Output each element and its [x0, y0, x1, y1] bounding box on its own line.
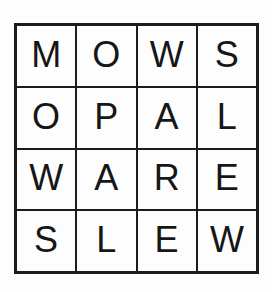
letter-grid: M O W S O P A L W A R: [14, 23, 259, 274]
grid-cell-r3c4[interactable]: E: [198, 150, 256, 210]
grid-cell-r1c3[interactable]: W: [138, 26, 196, 86]
grid-cell-r1c4[interactable]: S: [198, 26, 256, 86]
grid-cell-r4c1[interactable]: S: [17, 211, 75, 271]
cell-letter: W: [150, 37, 184, 73]
cell-letter: E: [155, 222, 179, 258]
cell-letter: L: [217, 99, 237, 135]
grid-cell-r2c4[interactable]: L: [198, 88, 256, 148]
cell-letter: R: [154, 160, 180, 196]
grid-cell-r1c1[interactable]: M: [17, 26, 75, 86]
cell-letter: M: [31, 37, 61, 73]
cell-letter: W: [210, 222, 244, 258]
cell-letter: W: [29, 160, 63, 196]
cell-letter: P: [94, 99, 118, 135]
grid-cell-r2c1[interactable]: O: [17, 88, 75, 148]
grid-cell-r3c3[interactable]: R: [138, 150, 196, 210]
grid-cell-r3c1[interactable]: W: [17, 150, 75, 210]
grid-cell-r1c2[interactable]: O: [77, 26, 135, 86]
grid-cell-r4c4[interactable]: W: [198, 211, 256, 271]
grid-cell-r4c3[interactable]: E: [138, 211, 196, 271]
cell-letter: O: [32, 99, 60, 135]
cell-letter: L: [96, 222, 116, 258]
grid-cell-r2c3[interactable]: A: [138, 88, 196, 148]
cell-letter: O: [92, 37, 120, 73]
cell-letter: E: [215, 160, 239, 196]
cell-letter: A: [155, 99, 179, 135]
word-square-puzzle: M O W S O P A L W A R: [0, 0, 272, 292]
cell-letter: S: [215, 37, 239, 73]
cell-letter: A: [94, 160, 118, 196]
grid-cell-r4c2[interactable]: L: [77, 211, 135, 271]
cell-letter: S: [34, 222, 58, 258]
grid-cell-r3c2[interactable]: A: [77, 150, 135, 210]
grid-cell-r2c2[interactable]: P: [77, 88, 135, 148]
